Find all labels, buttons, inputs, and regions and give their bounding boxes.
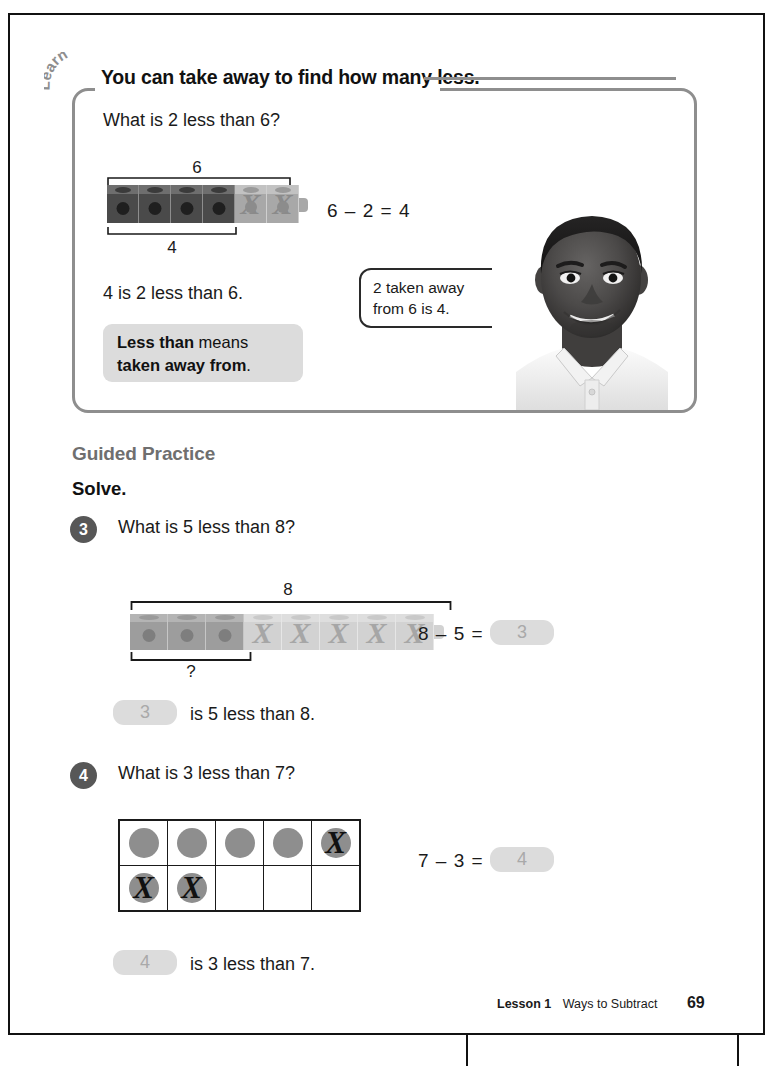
meaning-line-1: Less than means bbox=[117, 331, 291, 354]
cube-filled bbox=[171, 185, 203, 223]
problem-number-badge: 3 bbox=[70, 516, 97, 543]
cross-out-icon: X bbox=[181, 873, 202, 903]
speech-bubble-line-1: 2 taken away bbox=[373, 277, 507, 298]
footer-lesson: Lesson 1 bbox=[497, 997, 551, 1011]
ten-frame-cell bbox=[119, 820, 168, 866]
page-footer: Lesson 1 Ways to Subtract 69 bbox=[497, 994, 705, 1012]
cube-crossed: X bbox=[267, 185, 299, 223]
p3-answer-blank[interactable]: 3 bbox=[490, 620, 554, 645]
p4-statement-text: is 3 less than 7. bbox=[190, 954, 315, 974]
p3-bracket-part bbox=[130, 651, 252, 662]
p3-cube-train: X X X X X bbox=[130, 614, 444, 650]
ten-frame-cell: X bbox=[312, 820, 361, 866]
p3-equation: 8 – 5 = 3 bbox=[418, 620, 554, 645]
counter bbox=[129, 828, 159, 858]
cube-filled bbox=[168, 614, 206, 650]
ten-frame-cell bbox=[216, 820, 264, 866]
ten-frame-cell bbox=[312, 866, 361, 912]
cube-crossed: X bbox=[235, 185, 267, 223]
ten-frame-cell: X bbox=[168, 866, 216, 912]
cube-connector-nub bbox=[299, 198, 308, 212]
p3-bracket-total bbox=[130, 600, 452, 611]
counter bbox=[225, 828, 255, 858]
p3-statement: 3 is 5 less than 8. bbox=[113, 700, 315, 725]
problem-number-badge: 4 bbox=[70, 762, 97, 789]
meaning-line-2: taken away from. bbox=[117, 354, 291, 377]
problem-question: What is 3 less than 7? bbox=[118, 763, 295, 784]
ten-frame-cell bbox=[216, 866, 264, 912]
ten-frame-cell bbox=[264, 820, 312, 866]
p4-equation-left: 7 – 3 = bbox=[418, 850, 484, 871]
counter bbox=[273, 828, 303, 858]
meaning-rest-2: . bbox=[246, 356, 251, 374]
cube-crossed: X bbox=[320, 614, 358, 650]
meaning-bold-1: Less than bbox=[117, 333, 194, 351]
directions-solve: Solve. bbox=[72, 478, 127, 500]
cube-filled bbox=[130, 614, 168, 650]
ten-frame-row: X bbox=[119, 820, 360, 866]
learn-bracket-part bbox=[107, 226, 237, 236]
cube-crossed: X bbox=[358, 614, 396, 650]
p4-statement: 4 is 3 less than 7. bbox=[113, 950, 315, 975]
learn-statement: 4 is 2 less than 6. bbox=[103, 283, 243, 304]
p4-equation: 7 – 3 = 4 bbox=[418, 847, 554, 872]
learn-equation: 6 – 2 = 4 bbox=[327, 200, 410, 222]
cube-filled bbox=[206, 614, 244, 650]
page-number: 69 bbox=[687, 994, 705, 1011]
p3-bracket-total-label: 8 bbox=[130, 580, 446, 600]
cube-filled bbox=[107, 185, 139, 223]
p3-equation-left: 8 – 5 = bbox=[418, 623, 484, 644]
student-photo bbox=[492, 192, 692, 410]
learn-heading: You can take away to find how many less. bbox=[101, 66, 480, 89]
footer-lesson-title: Ways to Subtract bbox=[563, 997, 658, 1011]
cube-filled bbox=[203, 185, 235, 223]
p4-answer-blank[interactable]: 4 bbox=[490, 847, 554, 872]
meaning-bold-2: taken away from bbox=[117, 356, 246, 374]
speech-bubble-line-2: from 6 is 4. bbox=[373, 298, 507, 319]
page-spread-divider-right bbox=[737, 1035, 739, 1066]
p3-bracket-part-label: ? bbox=[130, 662, 252, 682]
cube-crossed: X bbox=[282, 614, 320, 650]
learn-bracket-part-label: 4 bbox=[107, 238, 237, 258]
ten-frame-row: X X bbox=[119, 866, 360, 912]
page-spread-divider-left bbox=[466, 1035, 468, 1066]
ten-frame-cell bbox=[168, 820, 216, 866]
p3-statement-text: is 5 less than 8. bbox=[190, 704, 315, 724]
meaning-rest-1: means bbox=[194, 333, 248, 351]
cube-filled bbox=[139, 185, 171, 223]
guided-practice-title: Guided Practice bbox=[72, 443, 215, 465]
p3-statement-blank[interactable]: 3 bbox=[113, 700, 177, 725]
learn-bracket-total-label: 6 bbox=[107, 158, 287, 178]
cross-out-icon: X bbox=[133, 873, 154, 903]
ten-frame-cell: X bbox=[119, 866, 168, 912]
counter bbox=[177, 828, 207, 858]
learn-cube-train: X X bbox=[107, 185, 308, 223]
speech-bubble: 2 taken away from 6 is 4. bbox=[359, 268, 509, 328]
learn-heading-rule bbox=[424, 77, 676, 80]
cube-crossed: X bbox=[244, 614, 282, 650]
learn-question: What is 2 less than 6? bbox=[103, 110, 280, 131]
learn-meaning-box: Less than means taken away from. bbox=[103, 324, 303, 382]
p4-statement-blank[interactable]: 4 bbox=[113, 950, 177, 975]
svg-text:Learn: Learn bbox=[44, 52, 70, 91]
cross-out-icon: X bbox=[325, 828, 346, 858]
problem-question: What is 5 less than 8? bbox=[118, 517, 295, 538]
ten-frame-cell bbox=[264, 866, 312, 912]
p4-ten-frame: X X X bbox=[118, 819, 361, 912]
learn-tab-label: Learn bbox=[44, 52, 108, 96]
